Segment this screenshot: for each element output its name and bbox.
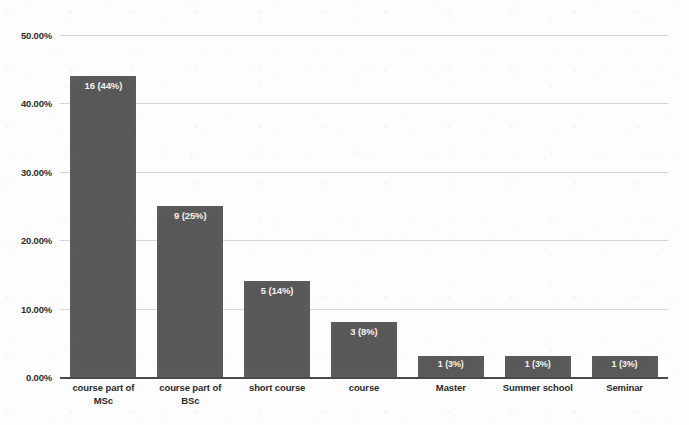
bar-value-label: 9 (25%) [157,210,223,221]
bar[interactable]: 16 (44%) [70,76,136,377]
bar-value-label: 16 (44%) [70,80,136,91]
bar-value-label: 1 (3%) [418,359,484,369]
y-axis: 50.00% 40.00% 30.00% 20.00% 10.00% 0.00% [0,35,52,377]
y-tick-label: 10.00% [21,303,52,314]
y-tick-label: 0.00% [26,372,52,383]
category-label-line: Summer school [494,381,581,394]
category-label: Master [407,381,494,394]
category-label-line: course part of [147,381,234,394]
bar-value-label: 3 (8%) [331,326,397,337]
bar-value-label: 1 (3%) [505,359,571,369]
bar-slot: 16 (44%) [60,35,147,377]
bar-slot: 5 (14%) [234,35,321,377]
category-label-line: short course [234,381,321,394]
category-label-line: course [321,381,408,394]
category-label: course [321,381,408,394]
bar-chart: 50.00% 40.00% 30.00% 20.00% 10.00% 0.00%… [0,0,689,425]
bar[interactable]: 9 (25%) [157,206,223,377]
bar[interactable]: 1 (3%) [418,356,484,377]
category-label-line: BSc [147,394,234,407]
category-label-line: Master [407,381,494,394]
category-label-line: course part of [60,381,147,394]
bar-slot: 1 (3%) [494,35,581,377]
bar-value-label: 5 (14%) [244,285,310,296]
bar[interactable]: 1 (3%) [505,356,571,377]
category-label: short course [234,381,321,394]
y-tick-label: 50.00% [21,30,52,41]
bar[interactable]: 5 (14%) [244,281,310,377]
category-label: course part ofMSc [60,381,147,407]
category-label-line: Seminar [581,381,668,394]
category-label: Seminar [581,381,668,394]
bars-layer: 16 (44%)9 (25%)5 (14%)3 (8%)1 (3%)1 (3%)… [60,35,668,377]
category-label: course part ofBSc [147,381,234,407]
category-labels: course part ofMSccourse part ofBScshort … [60,381,668,421]
bar-slot: 3 (8%) [321,35,408,377]
bar-slot: 1 (3%) [581,35,668,377]
bar[interactable]: 3 (8%) [331,322,397,377]
y-tick-label: 20.00% [21,235,52,246]
y-tick-label: 30.00% [21,166,52,177]
y-tick-label: 40.00% [21,98,52,109]
bar[interactable]: 1 (3%) [592,356,658,377]
bar-slot: 1 (3%) [407,35,494,377]
category-label: Summer school [494,381,581,394]
category-label-line: MSc [60,394,147,407]
x-axis-line [60,377,668,379]
bar-value-label: 1 (3%) [592,359,658,369]
bar-slot: 9 (25%) [147,35,234,377]
